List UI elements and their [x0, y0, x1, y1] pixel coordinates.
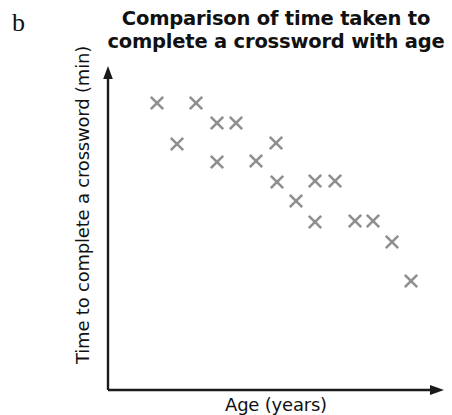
- data-point-marker: [171, 138, 183, 150]
- data-point-marker: [386, 236, 398, 248]
- y-axis-arrowhead: [103, 66, 113, 79]
- data-point-marker: [271, 176, 283, 188]
- data-point-marker: [211, 117, 223, 129]
- data-point-marker: [290, 195, 302, 207]
- data-point-marker: [309, 175, 321, 187]
- data-point-marker: [211, 156, 223, 168]
- data-point-marker: [250, 155, 262, 167]
- data-point-marker: [309, 216, 321, 228]
- data-point-marker: [329, 175, 341, 187]
- data-point-marker: [151, 97, 163, 109]
- data-point-marker: [405, 275, 417, 287]
- data-point-marker: [270, 137, 282, 149]
- data-point-marker: [349, 215, 361, 227]
- data-point-marker: [367, 215, 379, 227]
- data-point-marker: [230, 117, 242, 129]
- data-point-group: [151, 97, 417, 287]
- data-point-marker: [190, 97, 202, 109]
- x-axis-arrowhead: [430, 385, 444, 395]
